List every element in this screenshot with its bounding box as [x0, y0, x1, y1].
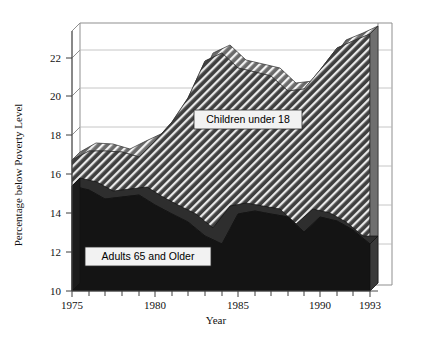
x-axis-ticks: 1975 1980 1985 1990 1993: [61, 291, 382, 311]
chart-canvas: 22 20 18 16 14 12 10: [0, 0, 432, 340]
legend-children-label: Children under 18: [206, 113, 290, 125]
legend-adults: Adults 65 and Older: [85, 247, 211, 266]
y-tick-label-14: 14: [50, 207, 62, 219]
children-right-side-face: [370, 26, 378, 244]
legend-adults-label: Adults 65 and Older: [102, 250, 195, 262]
legend-children: Children under 18: [194, 110, 302, 129]
poverty-area-chart: 22 20 18 16 14 12 10: [0, 0, 432, 340]
x-tick-label-1975: 1975: [61, 299, 84, 311]
x-tick-label-1990: 1990: [309, 299, 332, 311]
y-tick-label-20: 20: [50, 90, 62, 102]
y-tick-label-22: 22: [50, 52, 61, 64]
adults-left-side-face: [72, 178, 80, 291]
x-tick-label-1980: 1980: [144, 299, 167, 311]
y-tick-label-18: 18: [50, 129, 62, 141]
y-tick-label-10: 10: [50, 285, 62, 297]
x-axis-title: Year: [206, 314, 227, 326]
adults-right-side-face: [370, 236, 378, 291]
y-axis-title: Percentage below Poverty Level: [12, 104, 24, 247]
y-tick-label-16: 16: [50, 168, 62, 180]
y-axis-ticks: 22 20 18 16 14 12 10: [50, 52, 72, 297]
x-tick-label-1993: 1993: [359, 299, 382, 311]
x-tick-label-1985: 1985: [227, 299, 250, 311]
y-tick-label-12: 12: [50, 246, 61, 258]
